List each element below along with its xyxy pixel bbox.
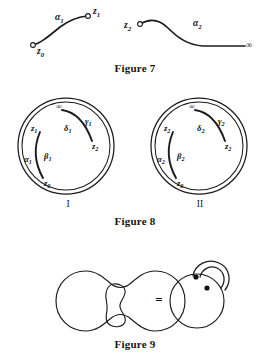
disk-II-roman-numeral: II <box>197 199 203 209</box>
disk-I-roman-numeral: I <box>66 199 69 209</box>
disk-I-delta-1-label: δ1 <box>64 123 72 134</box>
disk-I-z0-label: z0 <box>43 178 50 189</box>
disk-II-infinity-label: ∞ <box>189 102 195 111</box>
disk-I-alpha-1-label: α1 <box>24 154 32 165</box>
figure-8-caption: Figure 8 <box>115 215 156 227</box>
figures-canvas: α1 z0 z1 α2 z2 ∞ Figure 7 <box>0 0 270 364</box>
disk-II-alpha-beta-arc <box>169 132 176 178</box>
figure-9-group: = Figure 9 <box>56 261 229 349</box>
equals-sign: = <box>155 292 162 307</box>
figure-7-caption: Figure 7 <box>115 62 156 74</box>
disk-II-alpha-2-label: α2 <box>157 154 165 165</box>
genus-surface-outline <box>56 271 185 331</box>
disk-I-beta-1-label: β1 <box>43 151 52 162</box>
disk-II-z2-right-label: z2 <box>224 141 231 152</box>
disk-II-beta-2-label: β2 <box>176 151 185 162</box>
torus-base-circle <box>170 274 224 328</box>
z0-label: z0 <box>36 46 45 57</box>
z2-marker <box>138 22 143 27</box>
branch-point-1-dot <box>193 274 198 279</box>
alpha-2-label: α2 <box>193 18 202 29</box>
disk-I-z2-label: z2 <box>91 141 98 152</box>
alpha-1-label: α1 <box>55 12 64 23</box>
figure-plate: α1 z0 z1 α2 z2 ∞ Figure 7 <box>0 0 270 364</box>
z0-marker <box>31 43 36 48</box>
figure-8-disk-I: ∞ z1 z2 z0 δ1 γ1 α1 β1 I <box>18 98 114 209</box>
disk-II-gamma-2-label: γ2 <box>218 116 225 127</box>
z1-marker <box>86 14 91 19</box>
disk-II-z0-label: z0 <box>176 178 183 189</box>
figure-8-disk-II: ∞ z2 z2 z0 δ2 γ2 α2 β2 II <box>151 98 247 209</box>
torus-handle-inner <box>200 267 224 288</box>
disk-I-outer-boundary <box>18 98 114 194</box>
disk-I-z1-label: z1 <box>30 123 37 134</box>
disk-I-infinity-label: ∞ <box>56 102 62 111</box>
disk-II-outer-boundary <box>151 98 247 194</box>
z1-label: z1 <box>92 6 100 17</box>
disk-I-alpha-beta-arc <box>36 132 43 178</box>
branch-point-2-dot <box>204 285 209 290</box>
disk-I-gamma-1-label: γ1 <box>85 116 92 127</box>
disk-II-z2-left-label: z2 <box>163 123 170 134</box>
figure-7-group: α1 z0 z1 α2 z2 ∞ Figure 7 <box>31 6 253 73</box>
infinity-label-fig7: ∞ <box>246 40 252 50</box>
figure-9-caption: Figure 9 <box>115 338 156 350</box>
disk-II-delta-2-label: δ2 <box>197 123 205 134</box>
z2-label-fig7: z2 <box>123 20 132 31</box>
